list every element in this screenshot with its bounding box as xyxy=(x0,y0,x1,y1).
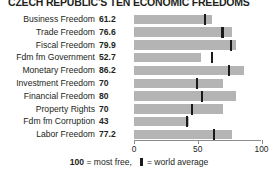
bar-track xyxy=(134,79,278,88)
world-average-tick xyxy=(211,52,213,63)
chart-row: Trade Freedom76.6 xyxy=(0,26,278,39)
world-average-tick xyxy=(221,27,223,38)
row-value: 43 xyxy=(99,115,127,128)
row-value: 70 xyxy=(99,103,127,116)
row-value: 70 xyxy=(99,77,127,90)
row-value: 79.9 xyxy=(99,39,127,52)
bar-fill xyxy=(134,27,232,36)
row-value: 52.7 xyxy=(99,51,127,64)
row-value: 77.2 xyxy=(99,128,127,141)
row-label-investment-freedom: Investment Freedom xyxy=(0,77,95,90)
row-label-business-freedom: Business Freedom xyxy=(0,13,95,26)
axis-tick-label: 0 xyxy=(132,144,137,154)
bar-track xyxy=(134,15,278,24)
world-average-tick xyxy=(204,14,206,25)
legend-max-text: = most free, xyxy=(86,157,132,167)
bar-fill xyxy=(134,53,201,62)
bar-fill xyxy=(134,117,189,126)
row-label-property-rights: Property Rights xyxy=(0,103,95,116)
bar-track xyxy=(134,53,278,62)
world-average-tick xyxy=(186,116,188,127)
chart-row: Fdm fm Government52.7 xyxy=(0,51,278,64)
bar-fill xyxy=(134,91,236,100)
legend-marker-text: = world average xyxy=(147,157,208,167)
row-value: 61.2 xyxy=(99,13,127,26)
chart-row: Fiscal Freedom79.9 xyxy=(0,39,278,52)
chart-legend: 100 = most free, = world average xyxy=(0,157,278,167)
chart-row: Business Freedom61.2 xyxy=(0,13,278,26)
bar-track xyxy=(134,130,278,139)
axis-tick-label: 100 xyxy=(255,144,269,154)
bar-track xyxy=(134,40,278,49)
row-value: 86.2 xyxy=(99,64,127,77)
axis-tick-label: 50 xyxy=(193,144,202,154)
bar-fill xyxy=(134,104,223,113)
world-average-tick xyxy=(201,91,203,102)
legend-max-value: 100 xyxy=(70,157,84,167)
bar-fill xyxy=(134,40,236,49)
chart-row: Fdm fm Corruption43 xyxy=(0,115,278,128)
world-average-tick xyxy=(230,40,232,51)
bar-track xyxy=(134,117,278,126)
bar-fill xyxy=(134,79,223,88)
chart-row: Property Rights70 xyxy=(0,103,278,116)
row-label-fdm-fm-government: Fdm fm Government xyxy=(0,51,95,64)
x-axis: 050100 xyxy=(134,140,262,145)
bar-fill xyxy=(134,130,232,139)
bar-track xyxy=(134,91,278,100)
chart-title: CZECH REPUBLIC'S TEN ECONOMIC FREEDOMS xyxy=(8,0,276,8)
world-average-tick xyxy=(191,104,193,115)
world-average-tick xyxy=(213,129,215,140)
bar-track xyxy=(134,104,278,113)
chart-row: Investment Freedom70 xyxy=(0,77,278,90)
row-label-monetary-freedom: Monetary Freedom xyxy=(0,64,95,77)
row-label-labor-freedom: Labor Freedom xyxy=(0,128,95,141)
world-average-tick xyxy=(196,78,198,89)
world-average-marker-icon xyxy=(140,158,142,166)
row-label-financial-freedom: Financial Freedom xyxy=(0,90,95,103)
chart-row: Monetary Freedom86.2 xyxy=(0,64,278,77)
chart-row: Financial Freedom80 xyxy=(0,90,278,103)
chart-rows: Business Freedom61.2Trade Freedom76.6Fis… xyxy=(0,13,278,141)
bar-track xyxy=(134,66,278,75)
bar-track xyxy=(134,27,278,36)
row-label-fiscal-freedom: Fiscal Freedom xyxy=(0,39,95,52)
row-label-fdm-fm-corruption: Fdm fm Corruption xyxy=(0,115,95,128)
row-label-trade-freedom: Trade Freedom xyxy=(0,26,95,39)
row-value: 80 xyxy=(99,90,127,103)
world-average-tick xyxy=(228,65,230,76)
bar-fill xyxy=(134,15,212,24)
row-value: 76.6 xyxy=(99,26,127,39)
